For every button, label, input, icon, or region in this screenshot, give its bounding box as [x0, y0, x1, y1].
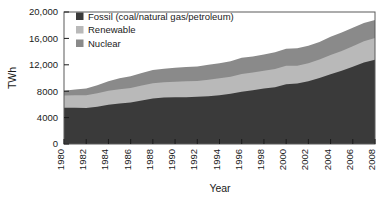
x-tick-label: 1998 [255, 149, 266, 170]
x-tick-label: 2002 [299, 149, 310, 170]
y-tick-label: 8000 [37, 86, 58, 97]
x-tick-label: 1984 [99, 149, 110, 170]
x-tick-label: 2006 [344, 149, 355, 170]
x-tick-label: 1990 [166, 149, 177, 170]
legend-label: Fossil (coal/natural gas/petroleum) [88, 11, 234, 22]
chart-canvas: 04000800012,00016,00020,000 198019821984… [0, 0, 380, 203]
legend-label: Renewable [88, 24, 136, 35]
legend-swatch-fossil [76, 13, 84, 21]
y-tick-label: 20,000 [29, 6, 58, 17]
x-tick-label: 2004 [322, 149, 333, 170]
x-tick-label: 2008 [366, 149, 377, 170]
y-tick-label: 12,000 [29, 59, 58, 70]
x-tick-label: 1982 [77, 149, 88, 170]
stacked-area-chart: 04000800012,00016,00020,000 198019821984… [0, 0, 380, 203]
y-axis-title: TWh [6, 67, 18, 89]
x-axis-title: Year [209, 182, 231, 194]
x-tick-label: 1994 [211, 149, 222, 170]
x-tick-label: 2000 [277, 149, 288, 170]
y-tick-label: 0 [53, 138, 58, 149]
x-tick-label: 1980 [55, 149, 66, 170]
y-tick-label: 16,000 [29, 33, 58, 44]
x-tick-label: 1996 [233, 149, 244, 170]
legend-label: Nuclear [88, 38, 121, 49]
legend-swatch-nuclear [76, 40, 84, 48]
x-tick-label: 1992 [188, 149, 199, 170]
x-tick-label: 1986 [122, 149, 133, 170]
x-tick-label: 1988 [144, 149, 155, 170]
y-tick-label: 4000 [37, 112, 58, 123]
legend-swatch-renewable [76, 26, 84, 34]
